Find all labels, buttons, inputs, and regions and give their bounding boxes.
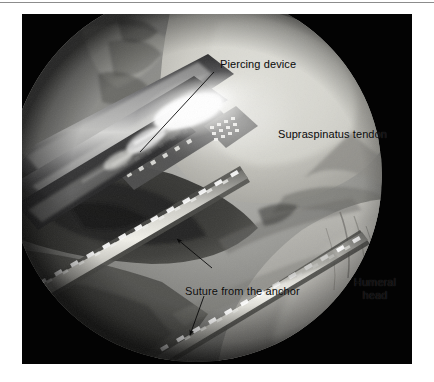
figure-page: Piercing device Supraspinatus tendon Sut… [0, 0, 434, 382]
annotation-label-piercing-device: Piercing device [220, 58, 296, 71]
arthroscopic-image [22, 14, 412, 364]
arthroscopic-photo-plate: Piercing device Supraspinatus tendon Sut… [22, 14, 412, 364]
page-top-rule [0, 2, 434, 3]
annotation-label-humeral-head-line1: Humeral [354, 276, 396, 288]
annotation-label-supraspinatus-tendon: Supraspinatus tendon [278, 128, 387, 141]
annotation-label-humeral-head: Humeral head [346, 276, 404, 302]
annotation-label-humeral-head-line2: head [363, 289, 388, 301]
annotation-label-suture-from-the-anchor: Suture from the anchor [185, 285, 300, 298]
